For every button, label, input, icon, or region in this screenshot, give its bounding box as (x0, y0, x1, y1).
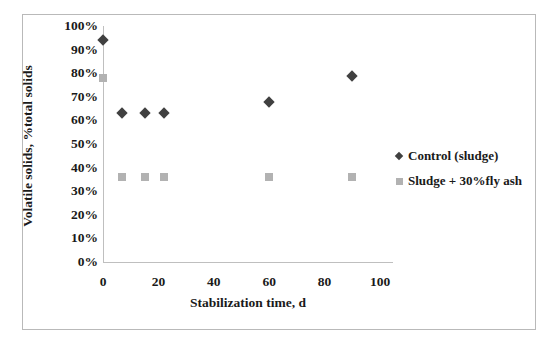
x-axis-line (103, 262, 393, 263)
y-axis-tick-label: 100% (56, 19, 98, 33)
y-axis-tick-label: 90% (56, 43, 98, 57)
legend-item: Sludge + 30%fly ash (392, 173, 532, 189)
y-axis-line (103, 26, 104, 263)
x-axis-tick-label: 100 (370, 274, 390, 289)
figure-container: 0%10%20%30%40%50%60%70%80%90%100% 020406… (0, 0, 556, 349)
square-marker-icon (141, 173, 149, 181)
diamond-marker-icon (158, 108, 169, 119)
y-axis-tick-label: 0% (56, 255, 98, 269)
plot-area: 0%10%20%30%40%50%60%70%80%90%100% 020406… (0, 0, 556, 349)
y-axis-tick-label: 70% (56, 90, 98, 104)
diamond-marker-icon (117, 108, 128, 119)
y-axis-tick-label: 20% (56, 208, 98, 222)
legend-diamond-marker-icon (392, 153, 406, 159)
y-axis-tick-label: 10% (56, 231, 98, 245)
x-axis-tick-0: 0 (83, 272, 123, 290)
x-axis-tick-label: 60 (262, 274, 276, 289)
diamond-marker-icon (347, 70, 358, 81)
diamond-marker-icon (139, 108, 150, 119)
y-axis-tick-label: 50% (56, 137, 98, 151)
x-axis-title: Stabilization time, d (103, 295, 393, 311)
y-axis-tick-label: 80% (56, 66, 98, 80)
x-axis-tick-label: 40 (207, 274, 221, 289)
x-axis-tick-label: 20 (152, 274, 166, 289)
square-marker-icon (99, 74, 107, 82)
square-marker-icon (348, 173, 356, 181)
square-marker-icon (160, 173, 168, 181)
x-axis-tick-80: 80 (305, 272, 345, 290)
x-axis-tick-label: 0 (100, 274, 107, 289)
y-axis-tick-label: 30% (56, 184, 98, 198)
legend-item: Control (sludge) (392, 148, 532, 164)
legend-item-label: Sludge + 30%fly ash (408, 173, 522, 189)
x-axis-tick-60: 60 (249, 272, 289, 290)
diamond-marker-icon (264, 96, 275, 107)
x-axis-tick-40: 40 (194, 272, 234, 290)
x-axis-tick-20: 20 (138, 272, 178, 290)
diamond-marker-icon (97, 34, 108, 45)
square-marker-icon (265, 173, 273, 181)
legend-item-label: Control (sludge) (408, 148, 498, 164)
y-axis-title: Volatile solids, %total solids (20, 46, 36, 246)
y-axis-tick-label: 60% (56, 113, 98, 127)
y-axis-tick-label: 40% (56, 161, 98, 175)
x-axis-tick-label: 80 (318, 274, 332, 289)
chart-legend: Control (sludge)Sludge + 30%fly ash (392, 148, 532, 198)
legend-square-marker-icon (392, 178, 406, 185)
x-axis-tick-100: 100 (360, 272, 400, 290)
square-marker-icon (118, 173, 126, 181)
